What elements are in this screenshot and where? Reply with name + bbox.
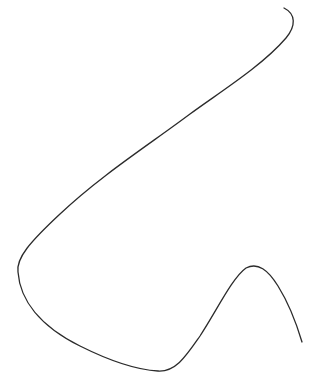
drawing-canvas — [0, 0, 314, 390]
background — [0, 0, 314, 390]
